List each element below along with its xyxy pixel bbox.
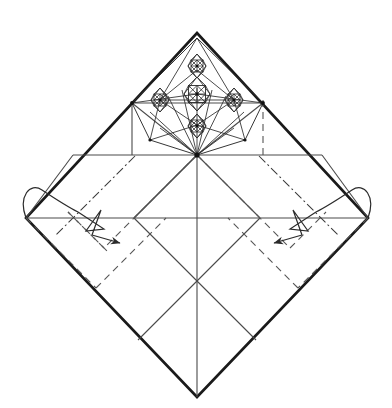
node-field-lower-left (148, 138, 151, 141)
node-field-right (261, 101, 265, 105)
node-field-lower-right (243, 138, 246, 141)
node-field-left (130, 101, 134, 105)
crease-pattern-figure (0, 0, 392, 408)
node-hub (194, 152, 199, 157)
crease-pattern-canvas (0, 0, 392, 408)
